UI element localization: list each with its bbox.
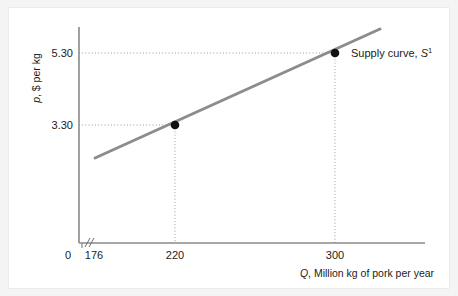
axes	[79, 27, 425, 248]
supply-curve-label: Supply curve, S1	[351, 46, 432, 59]
x-tick-label-176: 176	[85, 249, 103, 261]
point-300-marker	[331, 49, 340, 58]
supply-curve-line	[95, 29, 380, 158]
chart-canvas: 5.30 3.30 0 176 220 300 p, $ per kg Q, M…	[0, 0, 458, 296]
y-tick-label-330: 3.30	[52, 119, 73, 131]
x-origin-label: 0	[65, 249, 71, 261]
x-axis-title-symbol: Q	[300, 267, 308, 279]
x-tick-label-220: 220	[166, 249, 184, 261]
x-axis-title-rest: , Million kg of pork per year	[308, 267, 435, 279]
data-points	[171, 49, 340, 130]
point-220-marker	[171, 121, 180, 130]
y-axis-title-rest: , $ per kg	[30, 53, 42, 97]
y-axis-title: p, $ per kg	[30, 53, 42, 104]
supply-curve-label-text: Supply curve,	[351, 47, 421, 59]
figure-container: 5.30 3.30 0 176 220 300 p, $ per kg Q, M…	[0, 0, 458, 296]
supply-curve-label-superscript: 1	[428, 46, 432, 55]
x-axis-title: Q, Million kg of pork per year	[300, 267, 435, 279]
x-tick-label-300: 300	[326, 249, 344, 261]
y-tick-label-530: 5.30	[52, 47, 73, 59]
